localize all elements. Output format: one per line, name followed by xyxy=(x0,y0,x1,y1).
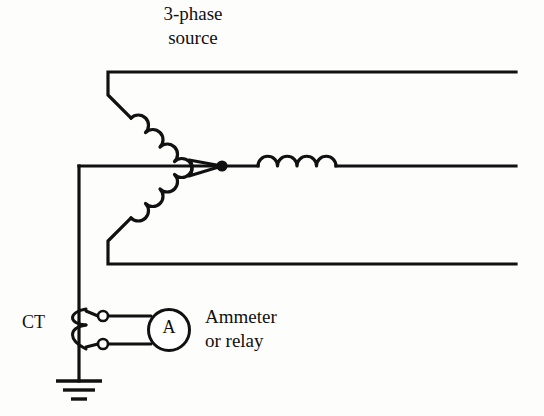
phase-line-top xyxy=(108,72,516,118)
source-label: 3-phase source xyxy=(133,2,253,51)
ground xyxy=(56,381,102,399)
neutral-node xyxy=(216,160,227,171)
terminal-upper xyxy=(98,311,108,321)
winding-middle xyxy=(258,156,336,166)
ammeter-or-relay-label: Ammeter or relay xyxy=(205,305,277,354)
terminal-lower xyxy=(98,339,108,349)
schematic-canvas: 3-phase source CT Ammeter or relay A xyxy=(0,0,544,416)
ammeter-symbol-letter: A xyxy=(159,316,179,339)
ct-secondary-leads xyxy=(86,311,151,347)
ct-label: CT xyxy=(22,311,45,334)
phase-line-bottom xyxy=(108,218,516,264)
